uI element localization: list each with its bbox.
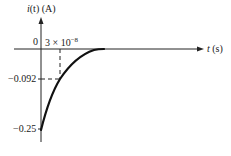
y-axis-label-t: (t): [30, 3, 39, 14]
y-axis-unit: (A): [42, 3, 56, 14]
y-tick-label-1: −0.092: [8, 74, 36, 84]
y-axis-arrow-icon: [39, 17, 44, 24]
x-axis-arrow-icon: [197, 47, 204, 52]
y-tick-label-2: −0.25: [13, 124, 36, 134]
x-axis-label: t (s): [207, 44, 223, 54]
origin-label: 0: [33, 37, 38, 47]
current-curve: [41, 49, 104, 130]
x-tick-label: 3 × 10−8: [45, 37, 78, 48]
y-axis-label: i(t) (A): [27, 4, 56, 14]
